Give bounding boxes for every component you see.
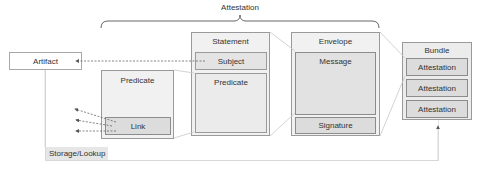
- attestation-brace: [101, 15, 379, 28]
- connectors-overlay: [0, 0, 481, 176]
- link-arrow-1: [75, 109, 116, 122]
- link-arrow-2: [76, 120, 112, 126]
